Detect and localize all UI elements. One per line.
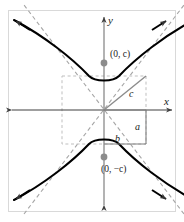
figure-frame bbox=[9, 11, 176, 212]
segment-c bbox=[104, 76, 146, 110]
axes bbox=[12, 17, 172, 205]
focus-point-upper bbox=[101, 60, 108, 67]
hyperbola-figure: y x (0, c) (0, −c) c a b bbox=[0, 0, 184, 222]
y-axis-label: y bbox=[107, 14, 113, 26]
focus-upper-label: (0, c) bbox=[110, 49, 130, 60]
x-axis-label: x bbox=[163, 95, 169, 107]
focus-point-lower bbox=[101, 154, 108, 161]
upper-branch bbox=[14, 20, 184, 81]
figure-canvas: y x (0, c) (0, −c) c a b bbox=[0, 0, 184, 222]
segment-b-label: b bbox=[115, 133, 120, 144]
curve-arrow-top-right bbox=[152, 21, 166, 30]
segment-c-label: c bbox=[129, 88, 134, 99]
focus-lower-label: (0, −c) bbox=[101, 164, 126, 175]
segment-a-label: a bbox=[135, 121, 140, 132]
curve-arrow-bottom-left bbox=[16, 190, 30, 199]
curve-arrow-top-left bbox=[16, 21, 30, 30]
curve-arrow-bottom-right bbox=[152, 190, 166, 199]
lower-branch bbox=[14, 140, 184, 201]
